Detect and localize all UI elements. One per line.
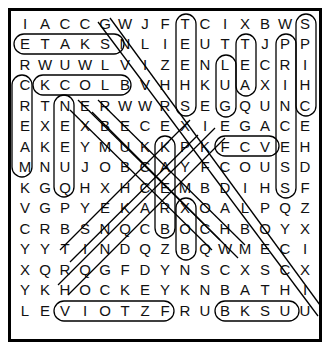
grid-cell[interactable]: Q	[135, 239, 155, 260]
grid-cell[interactable]: S	[275, 157, 295, 178]
grid-cell[interactable]: C	[235, 136, 255, 157]
grid-cell[interactable]: X	[175, 198, 195, 219]
grid-cell[interactable]: E	[255, 239, 275, 260]
grid-cell[interactable]: Y	[175, 157, 195, 178]
grid-cell[interactable]: E	[175, 54, 195, 75]
grid-cell[interactable]: Y	[75, 136, 95, 157]
grid-cell[interactable]: A	[135, 198, 155, 219]
grid-cell[interactable]: M	[235, 239, 255, 260]
grid-cell[interactable]: T	[35, 34, 55, 55]
grid-cell[interactable]: H	[175, 75, 195, 96]
grid-cell[interactable]: C	[55, 75, 75, 96]
grid-cell[interactable]: E	[155, 116, 175, 137]
grid-cell[interactable]: C	[275, 239, 295, 260]
grid-cell[interactable]: F	[295, 177, 315, 198]
grid-cell[interactable]: Y	[75, 198, 95, 219]
grid-cell[interactable]: I	[135, 54, 155, 75]
grid-cell[interactable]: G	[95, 259, 115, 280]
grid-cell[interactable]: L	[15, 300, 35, 321]
grid-cell[interactable]: T	[235, 34, 255, 55]
grid-cell[interactable]: T	[115, 300, 135, 321]
grid-cell[interactable]: E	[195, 95, 215, 116]
grid-cell[interactable]: E	[155, 177, 175, 198]
grid-cell[interactable]: L	[95, 75, 115, 96]
grid-cell[interactable]: M	[175, 177, 195, 198]
grid-cell[interactable]: Z	[135, 300, 155, 321]
grid-cell[interactable]: F	[155, 13, 175, 34]
grid-cell[interactable]: H	[295, 75, 315, 96]
grid-cell[interactable]: C	[15, 218, 35, 239]
grid-cell[interactable]: B	[115, 157, 135, 178]
grid-cell[interactable]: B	[255, 13, 275, 34]
grid-cell[interactable]: R	[95, 95, 115, 116]
grid-cell[interactable]: C	[215, 157, 235, 178]
grid-cell[interactable]: U	[55, 54, 75, 75]
grid-cell[interactable]: D	[115, 239, 135, 260]
grid-cell[interactable]: B	[235, 218, 255, 239]
grid-cell[interactable]: P	[175, 136, 195, 157]
grid-cell[interactable]: U	[195, 300, 215, 321]
grid-cell[interactable]: A	[35, 13, 55, 34]
grid-cell[interactable]: U	[255, 157, 275, 178]
grid-cell[interactable]: K	[35, 280, 55, 301]
grid-cell[interactable]: A	[235, 280, 255, 301]
grid-cell[interactable]: S	[95, 34, 115, 55]
grid-cell[interactable]: R	[175, 300, 195, 321]
grid-cell[interactable]: U	[55, 157, 75, 178]
grid-cell[interactable]: J	[75, 157, 95, 178]
grid-cell[interactable]: E	[55, 136, 75, 157]
grid-cell[interactable]: O	[75, 280, 95, 301]
grid-cell[interactable]: R	[275, 54, 295, 75]
grid-cell[interactable]: K	[115, 280, 135, 301]
grid-cell[interactable]: O	[95, 300, 115, 321]
grid-cell[interactable]: W	[275, 13, 295, 34]
grid-cell[interactable]: P	[55, 198, 75, 219]
grid-cell[interactable]: Q	[195, 239, 215, 260]
grid-cell[interactable]: U	[195, 34, 215, 55]
grid-cell[interactable]: K	[115, 198, 135, 219]
grid-cell[interactable]: X	[35, 116, 55, 137]
grid-cell[interactable]: Z	[295, 198, 315, 219]
grid-cell[interactable]: H	[215, 218, 235, 239]
grid-cell[interactable]: W	[115, 95, 135, 116]
grid-cell[interactable]: K	[35, 136, 55, 157]
grid-cell[interactable]: F	[195, 157, 215, 178]
grid-cell[interactable]: E	[35, 300, 55, 321]
grid-cell[interactable]: N	[195, 280, 215, 301]
grid-cell[interactable]: O	[95, 157, 115, 178]
grid-cell[interactable]: H	[115, 177, 135, 198]
grid-cell[interactable]: D	[135, 259, 155, 280]
grid-cell[interactable]: U	[295, 300, 315, 321]
grid-cell[interactable]: E	[295, 116, 315, 137]
grid-cell[interactable]: N	[55, 95, 75, 116]
grid-cell[interactable]: I	[275, 75, 295, 96]
grid-cell[interactable]: E	[55, 116, 75, 137]
grid-cell[interactable]: O	[195, 198, 215, 219]
grid-cell[interactable]: C	[135, 218, 155, 239]
grid-cell[interactable]: O	[255, 218, 275, 239]
grid-cell[interactable]: X	[295, 259, 315, 280]
grid-cell[interactable]: E	[175, 34, 195, 55]
grid-cell[interactable]: S	[295, 13, 315, 34]
grid-cell[interactable]: N	[275, 95, 295, 116]
grid-cell[interactable]: J	[255, 34, 275, 55]
grid-cell[interactable]: K	[75, 34, 95, 55]
grid-cell[interactable]: I	[195, 116, 215, 137]
grid-cell[interactable]: A	[255, 116, 275, 137]
grid-cell[interactable]: I	[295, 54, 315, 75]
grid-cell[interactable]: O	[175, 218, 195, 239]
grid-cell[interactable]: W	[115, 13, 135, 34]
grid-cell[interactable]: H	[55, 280, 75, 301]
grid-cell[interactable]: O	[235, 157, 255, 178]
grid-cell[interactable]: E	[15, 34, 35, 55]
grid-cell[interactable]: G	[215, 95, 235, 116]
grid-cell[interactable]: T	[255, 280, 275, 301]
grid-cell[interactable]: R	[155, 198, 175, 219]
grid-cell[interactable]: R	[155, 95, 175, 116]
grid-cell[interactable]: X	[255, 75, 275, 96]
grid-cell[interactable]: B	[155, 218, 175, 239]
grid-cell[interactable]: H	[295, 136, 315, 157]
grid-cell[interactable]: E	[215, 116, 235, 137]
grid-cell[interactable]: Q	[115, 218, 135, 239]
grid-cell[interactable]: E	[95, 198, 115, 219]
